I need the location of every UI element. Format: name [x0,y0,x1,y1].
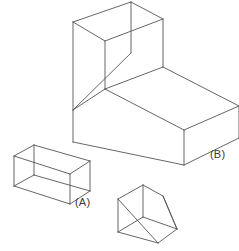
solid-b-l-shaped-block [73,2,239,165]
solid-b-faces [73,2,239,165]
solid-c-triangular-prism [116,185,177,243]
solid-b-label: (B) [210,148,225,160]
figure-canvas [0,0,239,251]
solid-a-label: (A) [75,196,90,208]
isometric-solids-figure: (A) (B) [0,0,239,251]
